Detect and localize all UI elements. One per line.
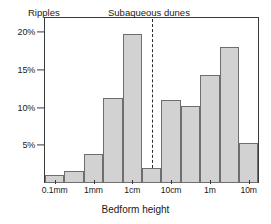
y-axis-tick-label: 5% <box>22 141 35 150</box>
x-axis-tick-label: 10m <box>240 185 256 196</box>
y-axis-tick-label: 10% <box>18 103 35 112</box>
x-axis-tick-mark <box>249 180 250 184</box>
y-axis-tick-mark <box>37 31 44 32</box>
y-axis-tick-mark <box>37 145 44 146</box>
y-axis: 5%10%15%20% <box>0 17 44 183</box>
x-axis-tick-label: 1mm <box>84 185 103 196</box>
x-axis-tick-mark <box>210 180 211 184</box>
x-axis-tick-label: 10cm <box>161 185 182 196</box>
y-axis-tick-label: 20% <box>18 28 35 37</box>
x-axis: 0.1mm1mm1cm10cm1m10m <box>44 185 259 201</box>
x-axis-tick-mark <box>171 180 172 184</box>
x-axis-tick-label: 0.1mm <box>42 185 68 196</box>
histogram-bar <box>220 47 239 183</box>
histogram-bar <box>142 168 161 183</box>
x-axis-tick-label: 1m <box>204 185 216 196</box>
histogram-bar <box>64 171 83 183</box>
histogram-bar <box>181 106 200 183</box>
region-label-ripples: Ripples <box>28 8 60 18</box>
histogram-bar <box>239 143 258 183</box>
x-axis-tick-mark <box>94 180 95 184</box>
bars-layer <box>44 17 259 183</box>
y-axis-tick-mark <box>37 69 44 70</box>
histogram-bar <box>161 100 180 183</box>
x-axis-tick-mark <box>132 180 133 184</box>
y-axis-tick-label: 15% <box>18 65 35 74</box>
y-axis-tick-mark <box>37 107 44 108</box>
histogram-bar <box>84 154 103 183</box>
x-axis-tick-label: 1cm <box>124 185 140 196</box>
histogram-bar <box>200 75 219 183</box>
x-axis-tick-mark <box>55 180 56 184</box>
histogram-bar <box>123 34 142 183</box>
histogram-bar <box>103 98 122 183</box>
histogram-figure: 5%10%15%20% Ripples Subaqueous dunes 0.1… <box>0 0 271 224</box>
ripple-dune-divider <box>152 19 153 183</box>
region-label-subaqueous-dunes: Subaqueous dunes <box>108 8 190 18</box>
x-axis-title: Bedform height <box>0 204 271 216</box>
